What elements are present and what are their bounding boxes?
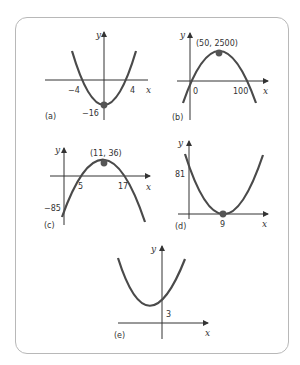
vertex-point xyxy=(101,160,108,167)
tick-x-17: 17 xyxy=(118,182,128,191)
panel-label: (b) xyxy=(172,113,183,122)
panel-d: y 81 9 x (d) xyxy=(175,138,268,231)
panel-b: y (50, 2500) 0 100 x (b) xyxy=(172,30,268,122)
x-axis-label-a: x xyxy=(146,85,151,95)
panel-label: (a) xyxy=(45,112,56,121)
vertex-point xyxy=(216,50,223,57)
tick-x-5: 5 xyxy=(78,182,83,191)
y-axis-label: y xyxy=(179,30,186,40)
tick-y-3: 3 xyxy=(166,310,171,319)
parabola-curve xyxy=(185,154,263,214)
panel-label: (e) xyxy=(114,331,125,340)
x-axis-label: x xyxy=(262,219,267,229)
y-axis-label: y xyxy=(95,30,102,40)
tick-x-4: 4 xyxy=(130,86,135,95)
panel-a: y −4 4 −16 (a) xyxy=(45,30,148,121)
panel-label: (c) xyxy=(44,221,55,230)
tick-x-100: 100 xyxy=(233,87,248,96)
parabola-figure: y −4 4 −16 (a) y (50, 2500) 0 100 x (b) … xyxy=(0,0,300,365)
vertex-point xyxy=(220,211,227,218)
x-axis-label: x xyxy=(263,86,268,96)
x-axis-label-c: x xyxy=(146,182,151,192)
tick-y-neg16: −16 xyxy=(82,109,99,118)
tick-x-0: 0 xyxy=(193,87,198,96)
vertex-label: (50, 2500) xyxy=(196,39,238,48)
vertex-label: (11, 36) xyxy=(90,149,122,158)
panel-c: y (11, 36) 5 17 −85 (c) xyxy=(44,145,150,230)
panel-label: (d) xyxy=(175,222,186,231)
tick-y-neg85: −85 xyxy=(44,204,61,213)
parabola-curve xyxy=(62,160,145,222)
y-axis-label: y xyxy=(177,138,184,148)
tick-x-9: 9 xyxy=(220,220,225,229)
parabola-curve xyxy=(118,258,185,306)
tick-x-neg4: −4 xyxy=(68,86,80,95)
panel-e: y 3 x (e) xyxy=(114,244,210,340)
tick-y-81: 81 xyxy=(175,170,185,179)
y-axis-label: y xyxy=(150,244,157,254)
x-axis-label: x xyxy=(205,328,210,338)
vertex-point xyxy=(101,102,108,109)
y-axis-label: y xyxy=(54,145,61,155)
